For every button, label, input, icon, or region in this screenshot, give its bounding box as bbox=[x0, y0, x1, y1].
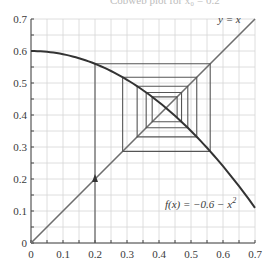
identity-label: y = x bbox=[217, 13, 241, 25]
function-label: f(x) = −0.6 − x2 bbox=[165, 196, 236, 211]
y-tick-label: 0.4 bbox=[13, 109, 27, 121]
cobweb-path bbox=[95, 64, 210, 243]
y-tick-label: 0.2 bbox=[13, 173, 27, 185]
x-tick-label: 0.1 bbox=[56, 248, 70, 260]
y-tick-label: 0 bbox=[22, 237, 28, 249]
x-tick-label: 0.7 bbox=[248, 248, 262, 260]
cobweb-chart: Cobweb plot for x₀ = 0.2 00.10.20.30.40.… bbox=[0, 0, 271, 266]
x-tick-label: 0 bbox=[28, 248, 34, 260]
top-cutoff-text: Cobweb plot for x₀ = 0.2 bbox=[110, 0, 220, 6]
y-tick-label: 0.3 bbox=[13, 141, 27, 153]
x-tick-label: 0.6 bbox=[216, 248, 230, 260]
x-tick-label: 0.5 bbox=[184, 248, 198, 260]
x-tick-label: 0.3 bbox=[120, 248, 134, 260]
y-tick-label: 0.1 bbox=[13, 205, 27, 217]
y-tick-label: 0.7 bbox=[13, 13, 27, 25]
x-tick-label: 0.4 bbox=[152, 248, 166, 260]
y-tick-label: 0.6 bbox=[13, 45, 27, 57]
x-tick-label: 0.2 bbox=[88, 248, 102, 260]
y-tick-label: 0.5 bbox=[13, 77, 27, 89]
